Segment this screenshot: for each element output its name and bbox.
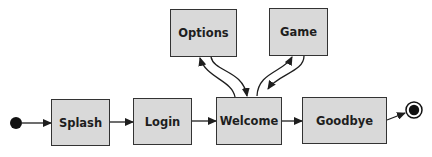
state-label: Goodbye	[316, 114, 373, 128]
state-game: Game	[269, 8, 328, 56]
state-label: Welcome	[220, 114, 279, 128]
transition-goodbye-final	[387, 113, 405, 120]
state-goodbye: Goodbye	[302, 97, 387, 144]
state-label: Game	[280, 25, 317, 39]
state-label: Options	[178, 26, 228, 40]
state-options: Options	[170, 9, 237, 57]
state-label: Splash	[59, 116, 102, 130]
state-welcome: Welcome	[216, 97, 282, 145]
transition-welcome-game	[257, 57, 292, 96]
initial-state-icon	[10, 117, 22, 129]
state-splash: Splash	[51, 99, 110, 146]
state-diagram: Splash Login Welcome Goodbye Options Gam…	[0, 0, 432, 157]
state-label: Login	[145, 115, 181, 129]
state-login: Login	[133, 98, 192, 145]
final-state-icon	[406, 102, 422, 118]
transition-welcome-options	[200, 58, 235, 97]
